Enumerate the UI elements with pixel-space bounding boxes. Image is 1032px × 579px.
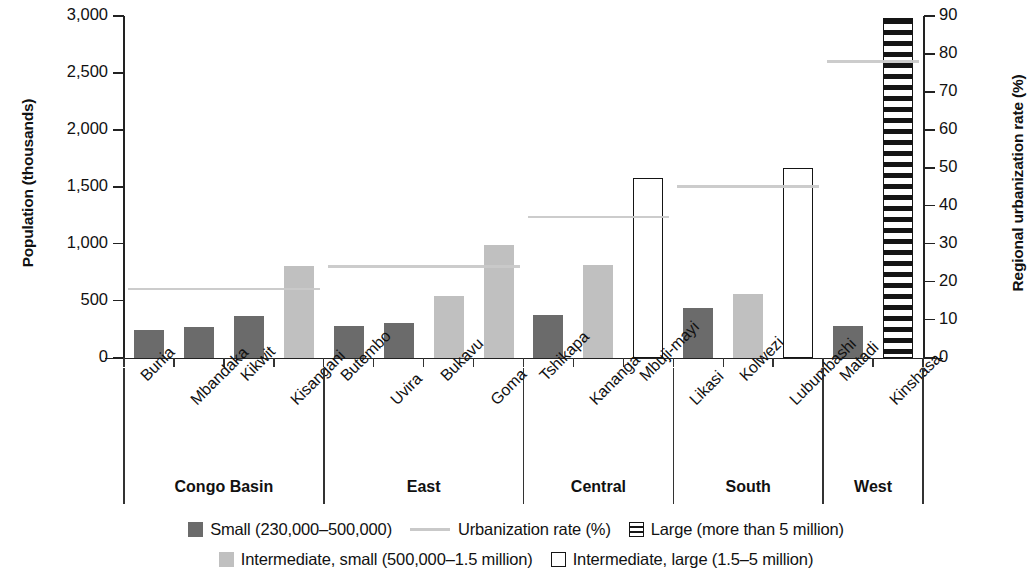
legend-label: Large (more than 5 million) [651, 520, 844, 539]
chart-canvas: Population (thousands) Regional urbaniza… [0, 0, 1032, 579]
group-label-south: South [673, 478, 823, 496]
y-tick-label-right: 90 [939, 5, 957, 24]
bar-kisangani [284, 266, 314, 358]
y-tick-left [113, 300, 124, 302]
y-tick-label-left: 1,500 [24, 176, 108, 195]
y-tick-left [113, 15, 124, 17]
x-label-likasi: Likasi [686, 367, 727, 408]
urbanization-rate-line-west [827, 60, 919, 63]
x-tick [123, 358, 124, 367]
y-tick-label-left: 1,000 [24, 233, 108, 252]
y-tick-label-right: 30 [939, 233, 957, 252]
y-tick-label-left: 2,500 [24, 62, 108, 81]
x-label-uvira: Uvira [387, 370, 426, 409]
y-tick-right [924, 243, 935, 245]
legend-item-intermediate-large[interactable]: Intermediate, large (1.5–5 million) [551, 550, 814, 569]
y-axis-title-right: Regional urbanization rate (%) [1009, 63, 1027, 303]
y-tick-right [924, 129, 935, 131]
legend-label: Urbanization rate (%) [458, 520, 611, 539]
x-tick [523, 358, 524, 367]
y-tick-label-right: 10 [939, 309, 957, 328]
y-tick-label-left: 3,000 [24, 5, 108, 24]
y-tick-left [113, 243, 124, 245]
urbanization-rate-line-east [328, 265, 520, 268]
legend-swatch-small-icon [188, 522, 203, 537]
urbanization-rate-line-south [677, 185, 819, 188]
y-tick-right [924, 53, 935, 55]
legend-item-rate[interactable]: Urbanization rate (%) [410, 520, 611, 539]
y-tick-label-right: 80 [939, 43, 957, 62]
y-tick-right [924, 205, 935, 207]
group-label-west: West [823, 478, 923, 496]
urbanization-rate-line-congo-basin [128, 288, 320, 291]
legend-label: Intermediate, large (1.5–5 million) [573, 550, 814, 569]
legend-swatch-intermediate-large-icon [551, 552, 566, 567]
y-tick-left [113, 186, 124, 188]
urbanization-rate-line-central [528, 216, 670, 219]
y-tick-label-left: 0 [24, 347, 108, 366]
y-tick-label-right: 60 [939, 119, 957, 138]
x-label-kananga: Kananga [586, 351, 644, 409]
legend-swatch-large-icon [629, 522, 644, 537]
bar-mbandaka [184, 327, 214, 358]
legend-swatch-rate-icon [410, 528, 450, 531]
group-label-central: Central [524, 478, 674, 496]
y-tick-label-right: 70 [939, 81, 957, 100]
y-tick-label-right: 20 [939, 271, 957, 290]
y-tick-right [924, 15, 935, 17]
y-tick-right [924, 167, 935, 169]
y-tick-right [924, 91, 935, 93]
y-tick-label-right: 40 [939, 195, 957, 214]
y-tick-label-left: 2,000 [24, 119, 108, 138]
legend-item-intermediate-small[interactable]: Intermediate, small (500,000–1.5 million… [219, 550, 533, 569]
group-label-east: East [324, 478, 524, 496]
group-label-congo-basin: Congo Basin [124, 478, 324, 496]
bar-goma [484, 245, 514, 358]
legend-row-1: Small (230,000–500,000)Urbanization rate… [0, 516, 1032, 542]
y-tick-label-right: 50 [939, 157, 957, 176]
bar-kinshasa [883, 18, 913, 358]
legend-item-large[interactable]: Large (more than 5 million) [629, 520, 844, 539]
y-tick-left [113, 72, 124, 74]
y-tick-label-left: 500 [24, 290, 108, 309]
legend-label: Intermediate, small (500,000–1.5 million… [241, 550, 533, 569]
legend-item-small[interactable]: Small (230,000–500,000) [188, 520, 392, 539]
legend-row-2: Intermediate, small (500,000–1.5 million… [0, 546, 1032, 572]
x-tick [423, 358, 424, 367]
bar-lubumbashi [783, 168, 813, 358]
bar-mbuji-mayi [633, 178, 663, 358]
legend-label: Small (230,000–500,000) [210, 520, 392, 539]
x-tick [723, 358, 724, 367]
y-tick-left [113, 129, 124, 131]
legend-swatch-intermediate-small-icon [219, 552, 234, 567]
y-tick-right [924, 281, 935, 283]
y-tick-right [924, 319, 935, 321]
